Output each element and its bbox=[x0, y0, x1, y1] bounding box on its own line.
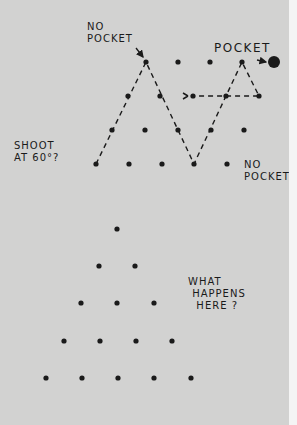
no-pocket-arrow-icon bbox=[136, 48, 143, 57]
ball-dot bbox=[241, 127, 246, 132]
ball-dot bbox=[96, 263, 101, 268]
ball-dot bbox=[159, 161, 164, 166]
ball-dot bbox=[190, 93, 195, 98]
ball-dot bbox=[132, 263, 137, 268]
what-happens-label: WHAT HAPPENS HERE ? bbox=[188, 276, 246, 312]
ball-dot bbox=[175, 59, 180, 64]
ball-dot bbox=[43, 375, 48, 380]
ball-dot bbox=[93, 161, 98, 166]
ball-dot bbox=[191, 161, 196, 166]
ball-dot bbox=[109, 127, 114, 132]
ball-dot bbox=[175, 127, 180, 132]
pocket-arrow-icon bbox=[257, 60, 266, 62]
ball-dot bbox=[169, 338, 174, 343]
bottom-triangle-dots bbox=[43, 226, 193, 380]
ball-dot bbox=[256, 93, 261, 98]
billiard-diagram bbox=[0, 0, 297, 425]
ball-dot bbox=[239, 59, 244, 64]
ball-dot bbox=[61, 338, 66, 343]
ball-dot bbox=[157, 93, 162, 98]
pocket-icon bbox=[268, 56, 280, 68]
ball-dot bbox=[115, 375, 120, 380]
ball-dot bbox=[97, 338, 102, 343]
ball-dot bbox=[223, 93, 228, 98]
ball-dot bbox=[78, 300, 83, 305]
ball-dot bbox=[114, 300, 119, 305]
ball-dot bbox=[143, 59, 148, 64]
shoot-question-label: SHOOT AT 60°? bbox=[14, 140, 59, 164]
no-pocket-top-label: NO POCKET bbox=[87, 21, 133, 45]
ball-dot bbox=[188, 375, 193, 380]
ball-dot bbox=[126, 161, 131, 166]
ball-dot bbox=[125, 93, 130, 98]
no-pocket-right-label: NO POCKET bbox=[244, 159, 290, 183]
pocket-label: POCKET bbox=[214, 41, 271, 55]
ball-dot bbox=[151, 375, 156, 380]
ball-dot bbox=[151, 300, 156, 305]
ball-dot bbox=[208, 127, 213, 132]
ball-dot bbox=[79, 375, 84, 380]
ball-dot bbox=[133, 338, 138, 343]
trajectory-arrow-icon bbox=[183, 93, 188, 99]
diagram-page: NO POCKET POCKET SHOOT AT 60°? NO POCKET… bbox=[0, 0, 297, 425]
ball-dot bbox=[224, 161, 229, 166]
ball-dot bbox=[207, 59, 212, 64]
ball-dot bbox=[114, 226, 119, 231]
ball-trajectory bbox=[96, 62, 259, 164]
ball-dot bbox=[142, 127, 147, 132]
